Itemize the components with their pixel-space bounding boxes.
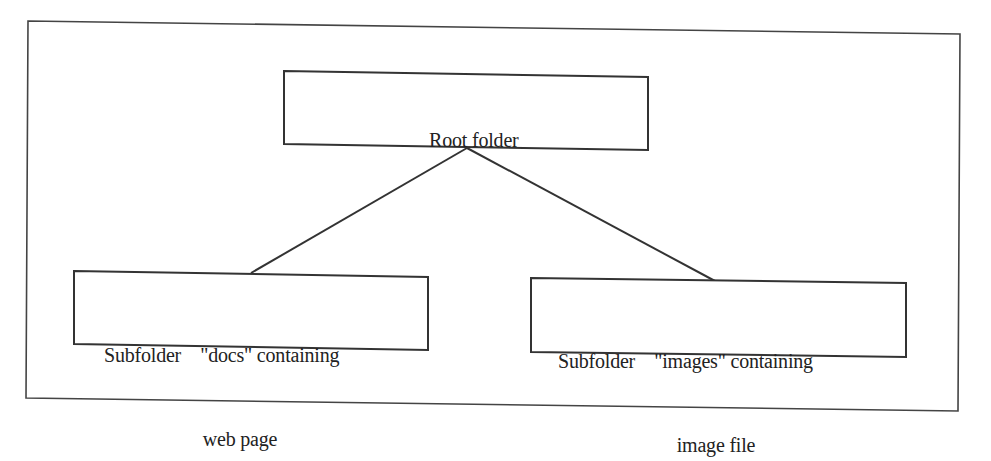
root-node-label: Root folder <box>374 98 564 154</box>
images-label-line-2: image file <box>556 431 876 459</box>
edge-root-to-docs <box>251 148 467 273</box>
images-node-label: Subfolder "images" containing image file <box>556 291 876 461</box>
docs-node-label: Subfolder "docs" containing web page <box>100 285 380 461</box>
root-label-line-1: Root folder <box>429 129 518 151</box>
images-label-line-1: Subfolder "images" containing <box>556 347 876 375</box>
edge-root-to-images <box>467 148 715 281</box>
docs-label-line-1: Subfolder "docs" containing <box>100 341 380 369</box>
docs-label-line-2: web page <box>100 425 380 453</box>
